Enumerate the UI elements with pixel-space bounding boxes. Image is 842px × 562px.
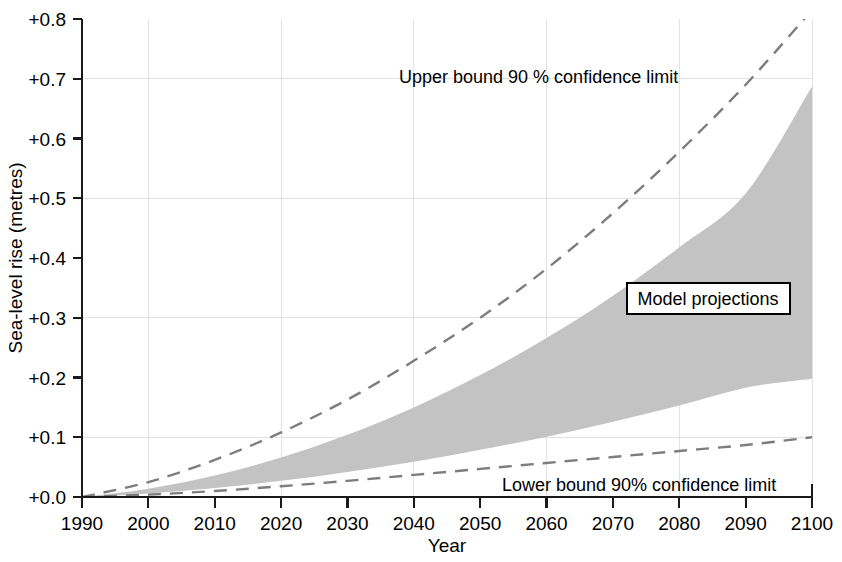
y-tick-label: +0.0 [28,487,66,508]
y-tick-label: +0.2 [28,368,66,389]
sea-level-rise-chart: +0.0+0.1+0.2+0.3+0.4+0.5+0.6+0.7+0.81990… [0,0,842,562]
y-axis-title: Sea-level rise (metres) [5,162,26,353]
model-projections-label: Model projections [637,289,778,309]
y-tick-label: +0.3 [28,308,66,329]
lower-bound-annotation: Lower bound 90% confidence limit [502,475,776,495]
y-tick-label: +0.1 [28,427,66,448]
y-tick-label: +0.4 [28,248,66,269]
x-tick-label: 2040 [393,513,435,534]
x-tick-label: 2060 [525,513,567,534]
x-tick-label: 2090 [724,513,766,534]
x-tick-label: 2020 [260,513,302,534]
chart-canvas: +0.0+0.1+0.2+0.3+0.4+0.5+0.6+0.7+0.81990… [0,0,842,562]
x-tick-label: 2010 [194,513,236,534]
x-tick-label: 2070 [592,513,634,534]
x-axis-title: Year [428,535,467,556]
x-tick-label: 2030 [326,513,368,534]
model-projections-callout: Model projections [627,283,790,314]
x-tick-label: 1990 [61,513,103,534]
x-tick-label: 2050 [459,513,501,534]
y-tick-label: +0.7 [28,69,66,90]
x-tick-label: 2100 [791,513,833,534]
x-tick-label: 2000 [127,513,169,534]
y-tick-label: +0.5 [28,188,66,209]
x-tick-label: 2080 [658,513,700,534]
y-tick-label: +0.6 [28,129,66,150]
upper-bound-annotation: Upper bound 90 % confidence limit [399,67,678,87]
y-tick-label: +0.8 [28,9,66,30]
